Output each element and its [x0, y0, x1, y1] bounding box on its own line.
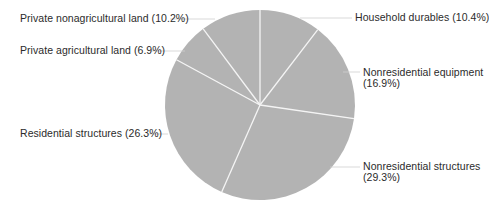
label-text: Private nonagricultural land (10.2%)	[20, 12, 189, 24]
label-text: Residential structures (26.3%)	[20, 127, 162, 139]
label-residential-structures: Residential structures (26.3%)	[20, 128, 162, 139]
label-text: Private agricultural land (6.9%)	[20, 44, 165, 56]
label-private-agricultural-land: Private agricultural land (6.9%)	[20, 45, 165, 56]
label-nonresidential-equipment: Nonresidential equipment (16.9%)	[363, 67, 483, 89]
label-private-nonagricultural-land: Private nonagricultural land (10.2%)	[20, 13, 189, 24]
label-value: (29.3%)	[363, 172, 480, 183]
label-household-durables: Household durables (10.4%)	[355, 12, 489, 23]
label-text: Household durables (10.4%)	[355, 11, 489, 23]
label-nonresidential-structures: Nonresidential structures (29.3%)	[363, 161, 480, 183]
label-value: (16.9%)	[363, 78, 483, 89]
